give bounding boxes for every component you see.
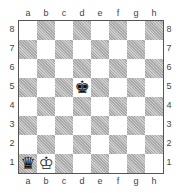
file-label-bottom: f — [109, 176, 127, 186]
file-label-top: h — [145, 8, 163, 18]
square-d2[interactable] — [73, 135, 91, 154]
square-d7[interactable] — [73, 40, 91, 59]
square-f6[interactable] — [109, 59, 127, 78]
square-b6[interactable] — [37, 59, 55, 78]
rank-label-right: 5 — [164, 81, 174, 91]
chess-board: ♚♛♔ — [18, 20, 164, 174]
file-label-bottom: c — [55, 176, 73, 186]
square-c4[interactable] — [55, 97, 73, 116]
square-b4[interactable] — [37, 97, 55, 116]
square-a2[interactable] — [19, 135, 37, 154]
file-label-bottom: a — [19, 176, 37, 186]
rank-label-right: 3 — [164, 119, 174, 129]
square-c2[interactable] — [55, 135, 73, 154]
square-a7[interactable] — [19, 40, 37, 59]
square-h3[interactable] — [145, 116, 163, 135]
square-g5[interactable] — [127, 78, 145, 97]
square-e6[interactable] — [91, 59, 109, 78]
rank-label-right: 7 — [164, 43, 174, 53]
file-label-top: e — [91, 8, 109, 18]
file-label-top: d — [73, 8, 91, 18]
square-d3[interactable] — [73, 116, 91, 135]
square-d6[interactable] — [73, 59, 91, 78]
black-queen-icon[interactable]: ♛ — [19, 154, 37, 173]
rank-label-left: 4 — [7, 100, 17, 110]
square-g1[interactable] — [127, 154, 145, 173]
square-e8[interactable] — [91, 21, 109, 40]
square-f8[interactable] — [109, 21, 127, 40]
file-label-top: a — [19, 8, 37, 18]
square-h7[interactable] — [145, 40, 163, 59]
square-c7[interactable] — [55, 40, 73, 59]
square-f7[interactable] — [109, 40, 127, 59]
square-b2[interactable] — [37, 135, 55, 154]
square-g4[interactable] — [127, 97, 145, 116]
square-f5[interactable] — [109, 78, 127, 97]
file-label-bottom: d — [73, 176, 91, 186]
file-label-bottom: e — [91, 176, 109, 186]
rank-label-left: 5 — [7, 81, 17, 91]
square-a6[interactable] — [19, 59, 37, 78]
square-e4[interactable] — [91, 97, 109, 116]
rank-label-right: 2 — [164, 138, 174, 148]
square-c8[interactable] — [55, 21, 73, 40]
white-king-icon[interactable]: ♔ — [37, 154, 55, 173]
square-g6[interactable] — [127, 59, 145, 78]
square-h5[interactable] — [145, 78, 163, 97]
square-a3[interactable] — [19, 116, 37, 135]
square-h6[interactable] — [145, 59, 163, 78]
square-h1[interactable] — [145, 154, 163, 173]
rank-label-left: 7 — [7, 43, 17, 53]
file-label-top: c — [55, 8, 73, 18]
square-g3[interactable] — [127, 116, 145, 135]
square-g7[interactable] — [127, 40, 145, 59]
rank-label-left: 8 — [7, 24, 17, 34]
square-b8[interactable] — [37, 21, 55, 40]
square-e1[interactable] — [91, 154, 109, 173]
rank-label-left: 2 — [7, 138, 17, 148]
square-a4[interactable] — [19, 97, 37, 116]
square-b3[interactable] — [37, 116, 55, 135]
square-e2[interactable] — [91, 135, 109, 154]
rank-label-left: 1 — [7, 157, 17, 167]
file-label-bottom: b — [37, 176, 55, 186]
square-h2[interactable] — [145, 135, 163, 154]
square-c1[interactable] — [55, 154, 73, 173]
rank-label-right: 6 — [164, 62, 174, 72]
square-f4[interactable] — [109, 97, 127, 116]
square-h4[interactable] — [145, 97, 163, 116]
rank-label-right: 8 — [164, 24, 174, 34]
square-g8[interactable] — [127, 21, 145, 40]
square-b5[interactable] — [37, 78, 55, 97]
square-e3[interactable] — [91, 116, 109, 135]
square-c3[interactable] — [55, 116, 73, 135]
square-d1[interactable] — [73, 154, 91, 173]
square-e7[interactable] — [91, 40, 109, 59]
square-f2[interactable] — [109, 135, 127, 154]
square-h8[interactable] — [145, 21, 163, 40]
file-label-bottom: h — [145, 176, 163, 186]
square-c5[interactable] — [55, 78, 73, 97]
file-label-top: g — [127, 8, 145, 18]
square-b7[interactable] — [37, 40, 55, 59]
square-a5[interactable] — [19, 78, 37, 97]
rank-label-right: 1 — [164, 157, 174, 167]
file-label-top: f — [109, 8, 127, 18]
square-f3[interactable] — [109, 116, 127, 135]
file-label-bottom: g — [127, 176, 145, 186]
file-label-top: b — [37, 8, 55, 18]
square-g2[interactable] — [127, 135, 145, 154]
rank-label-left: 6 — [7, 62, 17, 72]
square-f1[interactable] — [109, 154, 127, 173]
square-c6[interactable] — [55, 59, 73, 78]
rank-label-right: 4 — [164, 100, 174, 110]
square-a8[interactable] — [19, 21, 37, 40]
square-d8[interactable] — [73, 21, 91, 40]
black-king-icon[interactable]: ♚ — [73, 78, 91, 97]
square-e5[interactable] — [91, 78, 109, 97]
rank-label-left: 3 — [7, 119, 17, 129]
square-d4[interactable] — [73, 97, 91, 116]
